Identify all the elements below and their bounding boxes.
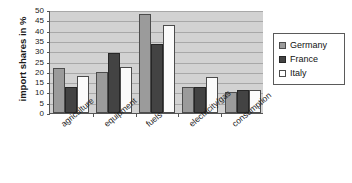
y-axis-tickmark [47,21,50,22]
x-axis-tickmark [221,113,222,117]
bar-group [96,11,132,113]
x-axis-tickmark [178,113,179,117]
bar [182,87,194,113]
y-axis-tick-label: 45 [26,17,44,25]
legend-item: Italy [279,66,340,80]
bar [96,72,108,113]
bar [108,53,120,113]
plot-area [49,11,263,114]
y-axis-tickmark [47,11,50,12]
y-axis-tick-label: 50 [26,7,44,15]
y-axis-tickmark [47,93,50,94]
y-axis-tick-label: 15 [26,79,44,87]
bar [53,68,65,113]
legend-swatch-icon [279,42,286,49]
y-axis-tick-label: 30 [26,48,44,56]
y-axis-tickmark [47,83,50,84]
y-axis-tickmark [47,42,50,43]
x-axis-tickmark [93,113,94,117]
y-axis-tickmark [47,52,50,53]
y-axis-tickmark [47,104,50,105]
y-axis-tickmark [47,63,50,64]
y-axis-tickmark [47,32,50,33]
bar-chart: import shares in % 05101520253035404550 … [0,0,352,183]
y-axis-tick-label: 20 [26,69,44,77]
chart-legend: GermanyFranceItaly [273,33,345,85]
legend-label: France [290,54,318,64]
bar-group [182,11,218,113]
y-axis-tick-label: 40 [26,28,44,36]
y-axis-tick-label: 35 [26,38,44,46]
y-axis-tick-label: 5 [26,100,44,108]
bar [163,25,175,113]
bar [139,14,151,113]
bar [151,44,163,113]
y-axis-tick-label: 25 [26,59,44,67]
legend-label: Italy [290,68,307,78]
y-axis-tick-label: 0 [26,110,44,118]
bar-group [53,11,89,113]
legend-label: Germany [290,40,327,50]
legend-item: France [279,52,340,66]
legend-swatch-icon [279,56,286,63]
x-axis-tickmark [136,113,137,117]
y-axis-tick-label: 10 [26,89,44,97]
bar-group [139,11,175,113]
y-axis-tickmark [47,114,50,115]
y-axis-tick-labels: 05101520253035404550 [26,11,44,113]
y-axis-tickmark [47,73,50,74]
legend-item: Germany [279,38,340,52]
legend-swatch-icon [279,70,286,77]
